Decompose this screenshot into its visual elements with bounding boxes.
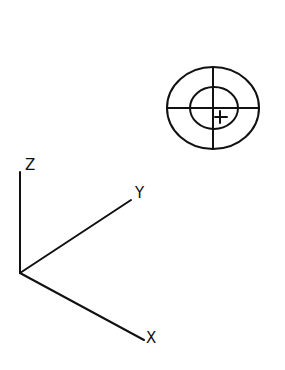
- target-symbol: [167, 67, 259, 149]
- z-axis-label: Z: [25, 156, 35, 174]
- plus-marker-icon: [215, 111, 227, 123]
- x-axis: [20, 273, 144, 340]
- axis-triad: Z Y X: [20, 156, 156, 347]
- y-axis: [20, 200, 131, 273]
- diagram-canvas: Z Y X: [0, 0, 285, 370]
- x-axis-label: X: [146, 329, 156, 347]
- y-axis-label: Y: [134, 184, 145, 202]
